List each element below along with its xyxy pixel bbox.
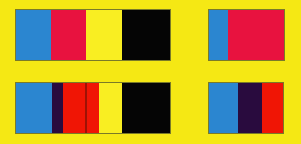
bottom-left-strip <box>16 83 170 133</box>
top-right-strip <box>209 10 284 60</box>
top-left-strip <box>16 10 170 60</box>
top-left-strip-yellow-band <box>86 10 122 60</box>
bottom-left-strip-red-band-right <box>87 83 99 133</box>
bottom-right-strip <box>209 83 283 133</box>
top-right-strip-crimson-band <box>228 10 284 60</box>
image-canvas <box>0 0 301 144</box>
bottom-left-strip-dark-purple-band <box>52 83 63 133</box>
top-left-strip-black-band <box>122 10 170 60</box>
top-left-strip-crimson-band <box>51 10 86 60</box>
bottom-right-strip-dark-purple-band <box>238 83 262 133</box>
bottom-left-strip-blue-band <box>16 83 52 133</box>
top-left-strip-blue-band <box>16 10 51 60</box>
bottom-right-strip-red-band <box>262 83 283 133</box>
top-right-strip-blue-band <box>209 10 228 60</box>
bottom-left-strip-red-band-left <box>63 83 85 133</box>
bottom-left-strip-black-band <box>122 83 170 133</box>
bottom-left-strip-yellow-band <box>99 83 122 133</box>
bottom-right-strip-blue-band <box>209 83 238 133</box>
